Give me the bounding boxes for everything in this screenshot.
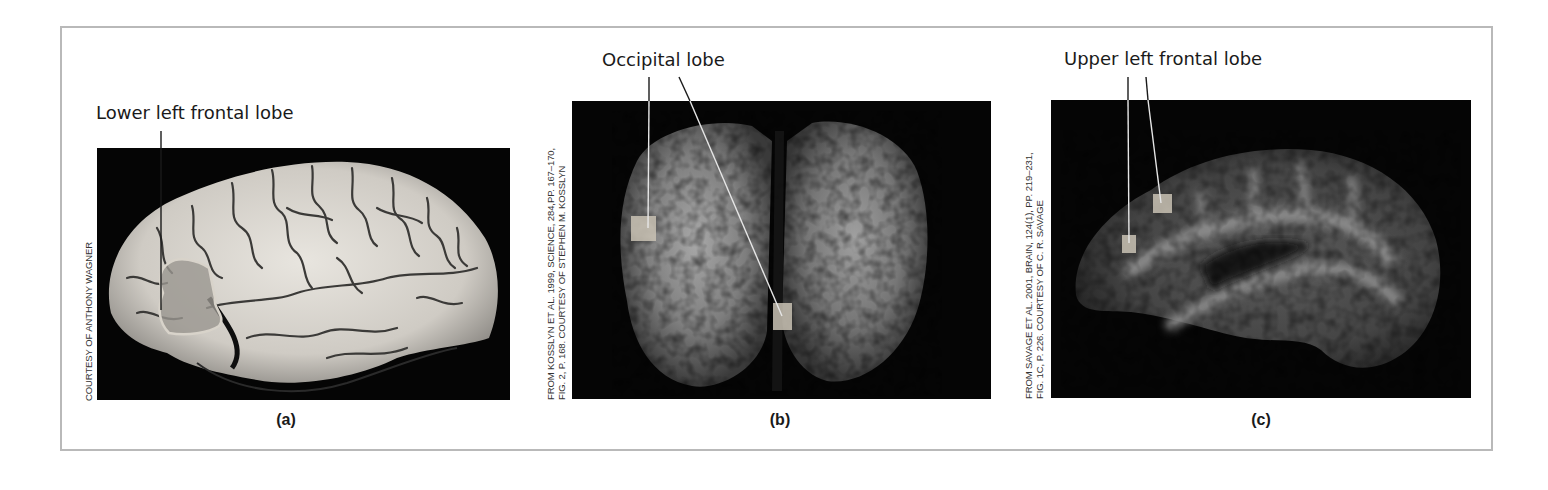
panel-c-marker-2 xyxy=(1122,235,1136,253)
panel-b-brain-scan xyxy=(572,101,991,399)
panel-c-label: Upper left frontal lobe xyxy=(1064,50,1262,68)
panel-a-credit: COURTESY OF ANTHONY WAGNER xyxy=(83,242,94,401)
panel-b-credit: FROM KOSSLYN ET AL. 1999, SCIENCE, 284,P… xyxy=(545,148,567,400)
panel-b-label: Occipital lobe xyxy=(602,51,725,69)
panel-b-marker-2 xyxy=(773,303,792,330)
panel-c-credit: FROM SAVAGE ET AL. 2001, BRAIN, 124(1), … xyxy=(1023,152,1045,399)
panel-a-caption: (a) xyxy=(256,412,316,428)
panel-a-label: Lower left frontal lobe xyxy=(96,104,294,122)
panel-c-brain-scan xyxy=(1051,100,1471,398)
panel-c-marker-1 xyxy=(1153,194,1172,213)
panel-b-caption: (b) xyxy=(750,412,810,428)
panel-c-caption: (c) xyxy=(1231,412,1291,428)
panel-a-brain-photo xyxy=(97,148,510,400)
panel-b-marker-1 xyxy=(631,216,656,241)
